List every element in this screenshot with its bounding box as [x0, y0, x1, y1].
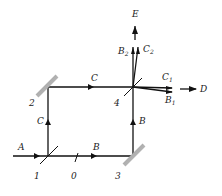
label-c1: C1 — [162, 73, 173, 83]
label-b1: B1 — [165, 96, 175, 106]
label-mirror-2: 2 — [29, 99, 35, 108]
label-c2: C2 — [143, 45, 154, 55]
label-b-right: B — [139, 117, 146, 126]
label-b2: B2 — [118, 47, 128, 57]
arrowheads — [34, 26, 197, 159]
beam-splitter-1 — [40, 146, 58, 164]
label-a: A — [18, 143, 25, 152]
mirror-3 — [124, 145, 144, 165]
label-splitter-4: 4 — [114, 99, 120, 108]
label-mirror-3: 3 — [115, 172, 121, 181]
label-b-lower: B — [93, 143, 100, 152]
label-c-upper: C — [91, 74, 98, 83]
label-splitter-1: 1 — [34, 172, 40, 181]
label-c-left: C — [37, 117, 44, 126]
label-d: D — [200, 85, 207, 94]
phase-shifter-0 — [75, 153, 78, 162]
label-e: E — [132, 10, 139, 19]
mirror-2 — [37, 76, 57, 96]
label-phase-0: 0 — [71, 172, 77, 181]
